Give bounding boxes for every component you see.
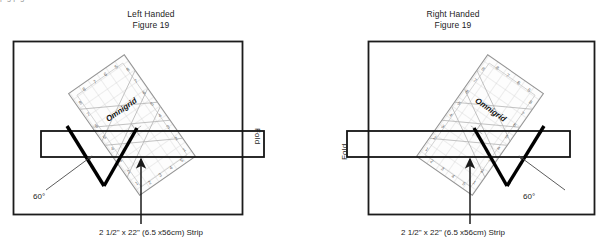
panel-right-handed: Right Handed Figure 19 [302,0,604,249]
diagram-left: 87 65 43 21 87 65 43 21 87 65 23 45 Omni… [0,0,302,249]
diagram-right: 87 65 43 21 87 65 43 21 87 65 23 45 Omni… [302,0,604,249]
strip-caption: 2 1/2" x 22" (6.5 x56cm) Strip [0,228,302,238]
figure-page: p g p g Left Handed Figure 19 [0,0,604,249]
angle-label-60: 60° [33,192,45,201]
strip-caption: 2 1/2" x 22" (6.5 x56cm) Strip [302,228,604,238]
fold-label: Fold [253,128,262,144]
panel-left-handed: Left Handed Figure 19 [0,0,302,249]
angle-label-60: 60° [523,192,535,201]
fold-label: Fold [340,144,349,160]
